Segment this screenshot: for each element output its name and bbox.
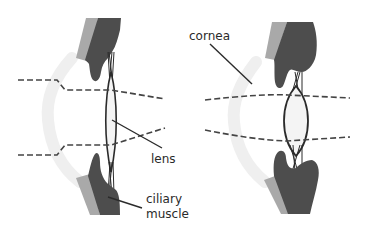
ciliary-muscle-label-line2: muscle	[146, 207, 189, 221]
lens-leader-line	[112, 120, 162, 148]
cornea-leader-line	[210, 44, 252, 84]
right-cornea	[234, 62, 265, 182]
right-ray-top	[205, 95, 350, 100]
left-ray-top	[18, 80, 165, 99]
left-cornea	[48, 58, 80, 182]
eye-accommodation-diagram: lens ciliary muscle	[0, 0, 370, 236]
left-panel: lens ciliary muscle	[18, 18, 189, 221]
right-ray-bottom	[205, 130, 350, 141]
cornea-label: cornea	[189, 29, 230, 43]
left-ray-bottom	[18, 128, 165, 155]
right-panel: cornea	[189, 22, 350, 214]
ciliary-muscle-label-line1: ciliary	[146, 192, 182, 206]
lens-label: lens	[151, 152, 176, 166]
